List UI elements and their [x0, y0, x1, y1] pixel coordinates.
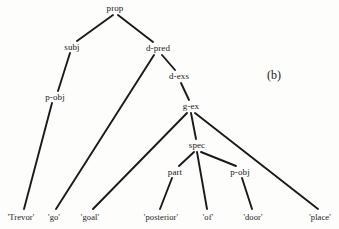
tree-node-p-obj-2: p-obj: [229, 167, 251, 177]
tree-node-p-obj-1: p-obj: [44, 92, 66, 102]
syntax-tree-figure: propsubjd-predp-objd-exsg-exspecpartp-ob…: [0, 0, 339, 229]
tree-edge-g-ex-to-place: [195, 113, 318, 209]
tree-node-part: part: [167, 167, 183, 177]
leaf-node-trevor: 'Trevor': [8, 212, 35, 222]
tree-node-prop: prop: [106, 3, 125, 13]
tree-edge-p-obj-2-to-door: [242, 178, 252, 209]
tree-edge-prop-to-d-pred: [118, 15, 153, 42]
tree-edge-d-pred-to-d-exs: [162, 55, 175, 70]
leaf-node-door: 'door': [243, 212, 262, 222]
tree-edge-spec-to-of: [197, 152, 207, 209]
leaf-node-posterior: 'posterior': [144, 212, 178, 222]
tree-edge-d-exs-to-g-ex: [181, 83, 189, 100]
leaf-node-goal: 'goal': [81, 212, 99, 222]
tree-node-spec: spec: [188, 140, 206, 150]
tree-node-g-ex: g-ex: [182, 101, 200, 111]
tree-edge-d-pred-to-go: [56, 55, 154, 209]
tree-edges: [0, 0, 339, 229]
tree-edge-spec-to-p-obj-2: [201, 152, 236, 166]
tree-node-subj: subj: [63, 42, 80, 52]
tree-node-d-pred: d-pred: [145, 43, 171, 53]
leaf-node-place: 'place': [309, 212, 331, 222]
tree-edge-subj-to-p-obj-1: [58, 53, 70, 91]
tree-edge-g-ex-to-spec: [191, 113, 196, 139]
tree-edge-spec-to-part: [179, 152, 194, 166]
tree-edge-prop-to-subj: [77, 15, 113, 41]
leaf-node-go: 'go': [48, 212, 60, 222]
tree-edge-part-to-posterior: [160, 178, 172, 209]
tree-node-d-exs: d-exs: [168, 71, 190, 81]
panel-label-b: (b): [267, 68, 281, 83]
tree-edge-p-obj-1-to-trevor: [24, 103, 52, 209]
leaf-node-of: 'of': [203, 212, 214, 222]
